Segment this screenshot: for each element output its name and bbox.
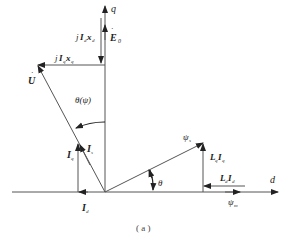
svg-text:s: s (189, 138, 191, 143)
svg-text:0: 0 (118, 38, 121, 44)
svg-text:d: d (232, 179, 235, 184)
svg-text:d: d (86, 209, 89, 214)
svg-text:·: · (31, 68, 34, 77)
svg-text:q: q (71, 59, 74, 64)
q-axis-label: q (111, 3, 116, 14)
svg-text:E: E (109, 32, 117, 43)
svg-text:j: j (54, 53, 58, 63)
phasor-diagram: q d E 0 · j I d x d j I q x q U · θ(ψ) I… (0, 0, 288, 248)
theta-label: θ (158, 178, 163, 188)
e0-label: E 0 · (109, 24, 121, 44)
svg-text:m: m (234, 203, 238, 208)
u-vector (38, 66, 105, 192)
psi-s-label: ψ s (183, 132, 191, 143)
u-label: U · (28, 68, 36, 86)
svg-text:q: q (222, 158, 225, 163)
svg-text:q: q (71, 156, 74, 161)
theta-psi-label: θ(ψ) (75, 95, 91, 105)
id-label: I d (81, 202, 89, 214)
figure-caption: ( a ) (136, 223, 151, 233)
jiqxq-label: j I q x q (54, 53, 74, 64)
d-axis-label: d (270, 174, 276, 185)
svg-text:s: s (91, 150, 93, 155)
svg-text:·: · (111, 24, 114, 33)
jidxd-label: j I d x d (75, 32, 95, 43)
is-label: I s (86, 143, 93, 155)
iq-label: I q (66, 149, 74, 161)
theta-psi-arc (76, 122, 105, 128)
ldid-label: L d I d (219, 173, 235, 184)
svg-text:d: d (92, 38, 95, 43)
svg-text:j: j (75, 32, 79, 42)
lqiq-label: L q I q (209, 152, 225, 163)
psi-s-vector (105, 143, 203, 192)
psi-m-label: ψ m (228, 197, 238, 208)
